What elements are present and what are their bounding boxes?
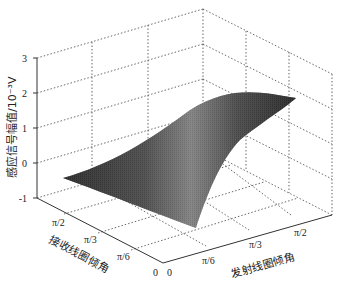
svg-text:π/6: π/6 [117, 251, 130, 262]
svg-text:0: 0 [153, 267, 158, 278]
svg-text:-1: -1 [19, 193, 27, 204]
svg-text:π/2: π/2 [52, 217, 65, 228]
svg-text:3: 3 [22, 53, 27, 64]
svg-text:π/3: π/3 [249, 239, 262, 250]
y-axis-label: 接收线圈倾角 [47, 232, 112, 275]
svg-text:1: 1 [22, 123, 27, 134]
x-axis-label: 发射线圈倾角 [229, 249, 296, 281]
z-tick-labels: 3 2 1 0 -1 [19, 53, 27, 204]
svg-text:2: 2 [22, 88, 27, 99]
surface-plot-3d: 3 2 1 0 -1 π/2 π/3 π/6 0 0 π/6 π/3 π/2 感… [0, 0, 337, 287]
svg-text:π/2: π/2 [294, 227, 307, 238]
svg-text:π/3: π/3 [84, 234, 97, 245]
z-axis-label: 感应信号幅值/10⁻³V [5, 76, 19, 178]
svg-text:0: 0 [22, 158, 27, 169]
svg-text:π/6: π/6 [202, 255, 215, 266]
svg-text:0: 0 [167, 267, 172, 278]
surface [63, 92, 296, 228]
